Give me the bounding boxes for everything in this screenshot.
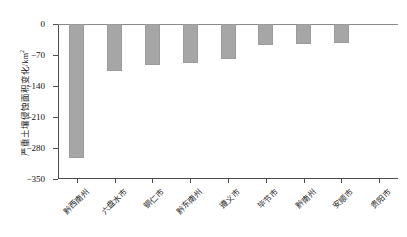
y-tick-label: −70 [5,50,45,60]
x-axis-label-1: 六盘水市 [92,186,128,222]
y-tick-label: −280 [5,143,45,153]
y-tick-label: −140 [5,81,45,91]
plot-area: 0−70−140−210−280−350 [58,24,398,179]
x-axis-label-4: 遵义市 [206,186,242,222]
y-axis-title-text: 严重土壤侵蚀面积变化/km [20,53,30,156]
bar-chart: 严重土壤侵蚀面积变化/km2 0−70−140−210−280−350 黔西南州… [0,0,407,237]
x-axis-label-8: 贵阳市 [357,186,393,222]
y-tick-mark [53,117,58,118]
bar-7 [334,24,349,43]
y-axis-line [58,24,59,179]
bar-4 [221,24,236,59]
x-tick-mark [77,179,78,183]
x-tick-mark [152,179,153,183]
y-tick-mark [53,86,58,87]
x-axis-label-5: 毕节市 [243,186,279,222]
bar-0 [69,24,84,158]
y-tick-mark [53,24,58,25]
y-axis-title: 严重土壤侵蚀面积变化/km2 [18,23,30,183]
x-tick-mark [341,179,342,183]
bar-2 [145,24,160,65]
x-axis-label-3: 黔东南州 [168,186,204,222]
x-axis-label-7: 安顺市 [319,186,355,222]
bar-5 [258,24,273,45]
x-tick-mark [190,179,191,183]
y-tick-mark [53,55,58,56]
x-axis-label-0: 黔西南州 [55,186,91,222]
x-tick-mark [304,179,305,183]
y-tick-label: −350 [5,174,45,184]
bar-1 [107,24,122,71]
bar-3 [183,24,198,63]
x-tick-mark [379,179,380,183]
y-tick-label: 0 [5,19,45,29]
y-tick-label: −210 [5,112,45,122]
x-tick-mark [228,179,229,183]
x-axis-label-2: 铜仁市 [130,186,166,222]
bar-6 [296,24,311,44]
x-tick-mark [266,179,267,183]
x-axis-label-6: 黔南州 [281,186,317,222]
x-tick-mark [115,179,116,183]
y-tick-mark [53,179,58,180]
y-tick-mark [53,148,58,149]
